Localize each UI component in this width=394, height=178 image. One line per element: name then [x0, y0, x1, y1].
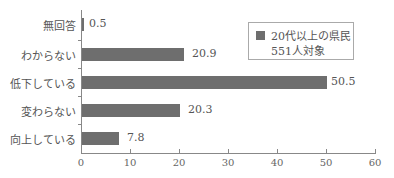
x-tick	[179, 149, 180, 153]
x-tick	[228, 149, 229, 153]
category-label-improving: 向上している	[0, 131, 76, 147]
bar-improving	[82, 132, 119, 145]
bar-no-answer	[82, 18, 84, 31]
y-tick	[78, 124, 81, 125]
x-tick-label: 10	[120, 157, 140, 168]
horizontal-bar-chart: 無回答 0.5 わからない 20.9 低下している 50.5 変わらない 20.…	[0, 0, 394, 178]
value-label-no-answer: 0.5	[89, 17, 107, 30]
value-label-declining: 50.5	[331, 75, 356, 88]
x-tick	[375, 149, 376, 153]
value-label-improving: 7.8	[127, 131, 145, 144]
bar-dont-know	[82, 48, 184, 61]
x-tick-label: 30	[218, 157, 238, 168]
category-label-no-answer: 無回答	[0, 17, 76, 33]
bar-declining	[82, 76, 327, 89]
y-tick	[78, 96, 81, 97]
legend: 20代以上の県民 551人対象	[248, 22, 354, 60]
x-tick	[326, 149, 327, 153]
legend-label-line1: 20代以上の県民	[271, 27, 351, 43]
bar-unchanged	[82, 104, 180, 117]
x-tick-label: 60	[365, 157, 385, 168]
category-label-declining: 低下している	[0, 75, 76, 91]
x-axis-line	[81, 153, 376, 154]
x-tick-label: 50	[316, 157, 336, 168]
value-label-dont-know: 20.9	[192, 47, 217, 60]
category-label-dont-know: わからない	[0, 47, 76, 63]
category-label-unchanged: 変わらない	[0, 103, 76, 119]
legend-swatch	[256, 31, 265, 40]
x-tick	[277, 149, 278, 153]
y-tick	[78, 40, 81, 41]
x-tick-label: 40	[267, 157, 287, 168]
legend-label-line2: 551人対象	[271, 42, 325, 58]
y-tick	[78, 68, 81, 69]
x-tick-label: 20	[169, 157, 189, 168]
x-tick-label: 0	[71, 157, 91, 168]
value-label-unchanged: 20.3	[188, 103, 213, 116]
x-tick	[130, 149, 131, 153]
